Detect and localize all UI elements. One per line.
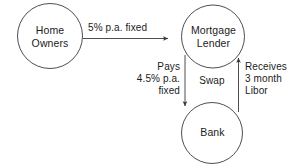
edge-label-fixed-rate-paid-by-home-owners: 5% p.a. fixed — [88, 22, 160, 34]
node-label-bank: Bank — [182, 126, 243, 139]
swap-diagram: Home Owners Mortgage Lender Bank 5% p.a.… — [0, 0, 307, 168]
annotation-label-swap: Swap — [190, 75, 234, 87]
node-label-home-owners: Home Owners — [17, 24, 83, 49]
edge-label-receives-libor: Receives 3 month Libor — [245, 61, 305, 98]
edge-label-pays-fixed: Pays 4.5% p.a. fixed — [112, 61, 180, 98]
node-label-mortgage-lender: Mortgage Lender — [180, 24, 247, 49]
